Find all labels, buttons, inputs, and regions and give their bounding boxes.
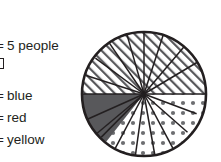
legend-label-people: 5 people	[7, 39, 59, 53]
pie-wedge-blue	[144, 32, 206, 94]
legend-label-blue: blue	[7, 89, 33, 103]
legend: = 5 people = blue = red = yellow	[0, 0, 104, 162]
pictogram-pie-figure: = 5 people = blue = red = yellow	[0, 0, 221, 162]
legend-item-blue: = blue	[0, 89, 32, 103]
legend-item-red: = red	[0, 111, 26, 125]
pie-spokes-blue	[86, 32, 206, 94]
pie-spokes-yellow	[101, 94, 196, 155]
legend-item-yellow: = yellow	[0, 133, 44, 147]
legend-swatch-cropped-icon	[0, 58, 4, 69]
legend-item-people: = 5 people	[0, 39, 59, 53]
legend-equals-sign: =	[0, 39, 4, 53]
legend-equals-sign: =	[0, 133, 4, 147]
pie-wedge-yellow	[97, 94, 214, 162]
legend-equals-sign: =	[0, 111, 4, 125]
legend-label-yellow: yellow	[7, 133, 45, 147]
legend-label-red: red	[7, 111, 27, 125]
legend-equals-sign: =	[0, 89, 4, 103]
